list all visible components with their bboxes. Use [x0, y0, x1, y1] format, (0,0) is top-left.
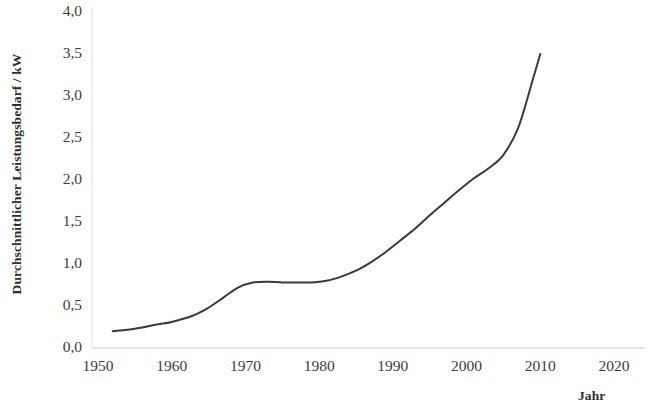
axis-lines [92, 8, 645, 348]
x-tick-label: 1990 [363, 357, 423, 375]
x-tick-label: 1950 [68, 357, 128, 375]
x-tick-label: 1970 [215, 357, 275, 375]
y-tick-label: 0,0 [42, 338, 82, 356]
line-chart-plot [0, 0, 654, 412]
x-tick-label: 1960 [142, 357, 202, 375]
x-tick-label: 2010 [510, 357, 570, 375]
series-line-durchschnittlicher-leistungsbedarf [113, 54, 541, 331]
y-tick-label: 3,0 [42, 86, 82, 104]
y-tick-label: 1,0 [42, 254, 82, 272]
x-axis-title: Jahr [578, 388, 605, 404]
x-tick-label: 2020 [584, 357, 644, 375]
y-axis-title: Durchschnittlicher Leistungsbedarf / kW [0, 0, 34, 348]
chart-container: Durchschnittlicher Leistungsbedarf / kW … [0, 0, 654, 412]
x-tick-label: 1980 [289, 357, 349, 375]
y-tick-label: 2,0 [42, 170, 82, 188]
y-tick-label: 0,5 [42, 296, 82, 314]
y-tick-label: 2,5 [42, 128, 82, 146]
y-tick-label: 1,5 [42, 212, 82, 230]
data-series-group [113, 54, 541, 331]
y-tick-label: 3,5 [42, 44, 82, 62]
x-tick-label: 2000 [437, 357, 497, 375]
y-tick-label: 4,0 [42, 2, 82, 20]
y-axis-title-label: Durchschnittlicher Leistungsbedarf / kW [9, 54, 25, 295]
